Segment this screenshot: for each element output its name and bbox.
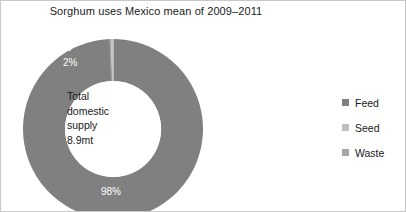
slice-label-waste: 2% <box>63 57 77 68</box>
center-label-line-3: supply <box>67 118 163 133</box>
slice-label-feed: 98% <box>101 186 121 197</box>
legend-swatch-icon-seed <box>342 124 349 131</box>
chart-figure: Sorghum uses Mexico mean of 2009–2011 0%… <box>0 0 406 212</box>
legend-label-feed: Feed <box>355 97 379 109</box>
legend-label-seed: Seed <box>355 122 380 134</box>
donut-center-label: Total domestic supply 8.9mt <box>67 89 163 147</box>
legend-label-waste: Waste <box>355 147 384 159</box>
center-label-line-2: domestic <box>67 104 163 119</box>
legend-swatch-icon-feed <box>342 99 349 106</box>
legend-swatch-icon-waste <box>342 149 349 156</box>
legend-item-waste[interactable]: Waste <box>342 140 404 165</box>
legend-item-seed[interactable]: Seed <box>342 115 404 140</box>
donut-chart: 0% 2% 98% Total domestic supply 8.9mt <box>1 1 261 212</box>
chart-legend: Feed Seed Waste <box>342 90 404 165</box>
center-label-line-4: 8.9mt <box>67 133 163 148</box>
slice-label-seed: 0% <box>57 42 71 53</box>
center-label-line-1: Total <box>67 89 163 104</box>
legend-item-feed[interactable]: Feed <box>342 90 404 115</box>
